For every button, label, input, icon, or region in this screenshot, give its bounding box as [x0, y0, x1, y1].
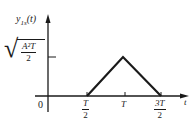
x-tick-label-3half: 3T 2: [154, 99, 166, 120]
y-axis-arrow-icon: [46, 14, 51, 23]
origin-label: 0: [38, 100, 43, 110]
y-axis-label: y1s(t): [16, 14, 36, 27]
triangle-pulse: [87, 57, 161, 96]
x-tick-label-half: T 2: [82, 99, 89, 120]
x-axis-label: t: [184, 98, 187, 107]
y-tick-label: √ A²T 2: [4, 36, 48, 66]
x-tick-label-t: T: [121, 100, 126, 109]
